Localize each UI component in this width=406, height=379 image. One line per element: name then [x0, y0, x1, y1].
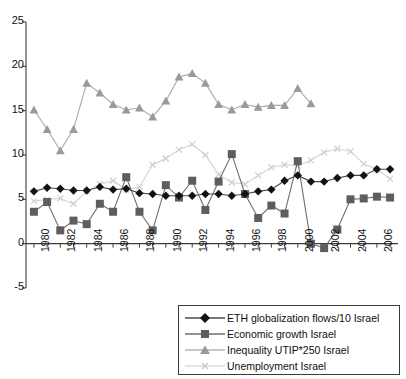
- data-point: [254, 214, 262, 222]
- y-tick-label: 0: [0, 236, 24, 248]
- x-tick-label: 1980: [39, 228, 51, 251]
- data-point: [293, 84, 302, 92]
- y-tick-label: 5: [0, 191, 24, 203]
- data-point: [109, 185, 117, 193]
- x-tick-label: 2002: [329, 228, 341, 251]
- data-point: [360, 194, 368, 202]
- data-point: [333, 174, 341, 182]
- x-tick-label: 1988: [144, 228, 156, 251]
- square-marker-icon: [183, 326, 227, 342]
- x-tick-label: 2000: [303, 228, 315, 251]
- y-tick-label: 25: [0, 14, 24, 26]
- data-point: [267, 185, 275, 193]
- data-point: [294, 157, 302, 165]
- data-point: [267, 202, 275, 210]
- data-point: [320, 177, 328, 185]
- data-point: [109, 208, 117, 216]
- chart-container: ETH globalization flows/10 Israel Econom…: [0, 0, 406, 379]
- data-point: [161, 97, 170, 105]
- data-point: [162, 192, 170, 200]
- data-point: [188, 192, 196, 200]
- data-point: [241, 100, 250, 108]
- legend-label-0: ETH globalization flows/10 Israel: [227, 310, 379, 326]
- data-point: [227, 105, 236, 113]
- data-point: [188, 177, 196, 185]
- data-point: [69, 186, 77, 194]
- data-point: [56, 226, 64, 234]
- legend-label-2: Inequality UTIP*250 Israel: [227, 342, 349, 358]
- diamond-marker-icon: [183, 310, 227, 326]
- data-point: [201, 206, 209, 214]
- x-tick-label: 1994: [224, 228, 236, 251]
- series-2: [30, 69, 316, 154]
- data-point: [43, 125, 52, 133]
- data-point: [83, 220, 91, 228]
- x-tick-label: 1996: [250, 228, 262, 251]
- data-point: [43, 184, 51, 192]
- y-tick-label: 20: [0, 58, 24, 70]
- data-point: [135, 104, 144, 112]
- data-point: [281, 210, 289, 218]
- data-point: [280, 177, 288, 185]
- y-tick-label: 10: [0, 147, 24, 159]
- data-point: [373, 193, 381, 201]
- x-tick-label: 1986: [118, 228, 130, 251]
- data-point: [346, 171, 354, 179]
- y-tick-label: -5: [0, 280, 24, 292]
- data-point: [135, 208, 143, 216]
- series-line: [34, 73, 311, 150]
- x-tick-label: 2006: [382, 228, 394, 251]
- data-point: [254, 187, 262, 195]
- data-point: [307, 177, 315, 185]
- legend-label-1: Economic growth Israel: [227, 326, 336, 342]
- data-point: [228, 150, 236, 158]
- legend-item-0[interactable]: ETH globalization flows/10 Israel: [183, 310, 395, 326]
- data-point: [96, 200, 104, 208]
- chart-legend: ETH globalization flows/10 Israel Econom…: [178, 305, 400, 375]
- legend-item-3[interactable]: Unemployment Israel: [183, 358, 395, 374]
- data-point: [320, 244, 328, 252]
- data-point: [69, 217, 77, 225]
- legend-label-3: Unemployment Israel: [227, 358, 326, 374]
- data-point: [214, 100, 223, 108]
- data-point: [122, 173, 130, 181]
- x-tick-label: 1984: [92, 228, 104, 251]
- y-tick-label: 15: [0, 103, 24, 115]
- x-tick-label: 1982: [65, 228, 77, 251]
- data-point: [135, 189, 143, 197]
- x-tick-label: 1998: [276, 228, 288, 251]
- data-point: [30, 105, 39, 113]
- triangle-marker-icon: [183, 342, 227, 358]
- data-point: [162, 181, 170, 189]
- legend-item-1[interactable]: Economic growth Israel: [183, 326, 395, 342]
- data-point: [56, 146, 65, 154]
- data-point: [30, 187, 38, 195]
- data-point: [215, 178, 223, 186]
- data-point: [30, 208, 38, 216]
- data-point: [69, 125, 78, 133]
- data-point: [201, 190, 209, 198]
- x-tick-label: 1992: [197, 228, 209, 251]
- data-point: [188, 69, 197, 77]
- data-point: [228, 192, 236, 200]
- data-point: [386, 165, 394, 173]
- data-point: [214, 190, 222, 198]
- data-point: [201, 79, 210, 87]
- data-point: [347, 195, 355, 203]
- data-point: [56, 184, 64, 192]
- data-point: [43, 198, 51, 206]
- data-point: [360, 171, 368, 179]
- data-point: [386, 194, 394, 202]
- data-point: [95, 89, 104, 97]
- legend-item-2[interactable]: Inequality UTIP*250 Israel: [183, 342, 395, 358]
- data-point: [82, 79, 91, 87]
- x-tick-label: 1990: [171, 228, 183, 251]
- cross-marker-icon: [183, 358, 227, 374]
- x-tick-label: 2004: [356, 228, 368, 251]
- data-point: [148, 190, 156, 198]
